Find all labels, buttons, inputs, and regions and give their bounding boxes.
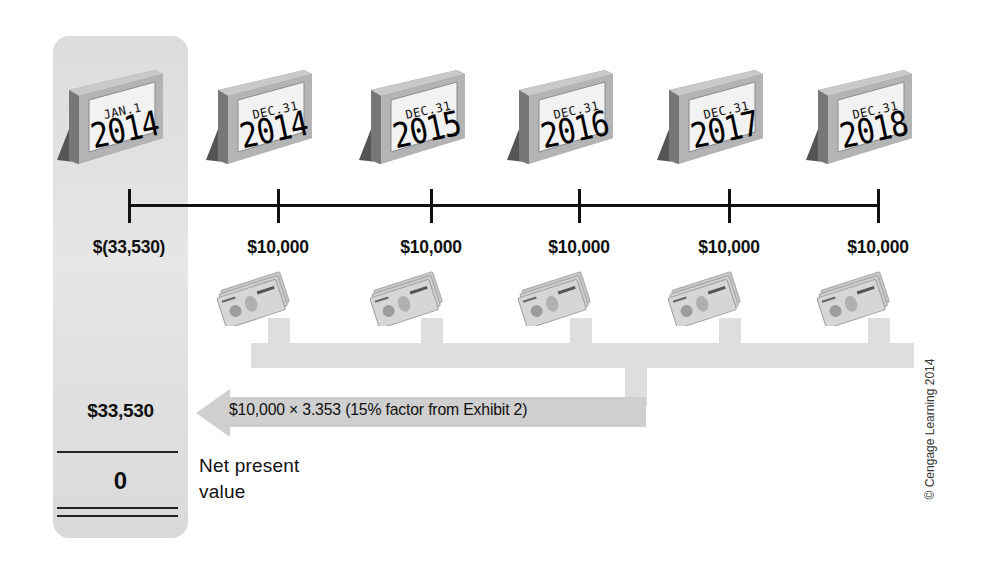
timeline-tick xyxy=(277,189,280,223)
money-bill-icon xyxy=(216,266,294,324)
money-bill-icon xyxy=(369,266,447,324)
subtotal-rule xyxy=(57,451,178,453)
cash-flow-label: $10,000 xyxy=(376,236,486,258)
timeline-tick xyxy=(728,189,731,223)
calendar-icon: JAN.12014 xyxy=(55,68,165,164)
present-value-amount: $33,530 xyxy=(58,400,183,422)
timeline-tick xyxy=(128,189,131,223)
calendar-icon: DEC.312018 xyxy=(804,68,914,164)
calendar-icon: DEC.312015 xyxy=(357,68,467,164)
calendar-icon: DEC.312017 xyxy=(655,68,765,164)
calendar-icon: DEC.312016 xyxy=(505,68,615,164)
timeline-tick xyxy=(430,189,433,223)
timeline-tick xyxy=(877,189,880,223)
npv-value: 0 xyxy=(58,467,183,495)
flow-collector-bar xyxy=(251,343,914,368)
money-bill-icon xyxy=(517,266,595,324)
npv-label: Net present value xyxy=(199,453,299,505)
calendar-icon: DEC.312014 xyxy=(204,68,314,164)
timeline-axis xyxy=(129,204,879,207)
discount-calculation: $10,000 × 3.353 (15% factor from Exhibit… xyxy=(229,400,527,420)
money-bill-icon xyxy=(667,266,745,324)
cash-flow-label: $(33,530) xyxy=(74,236,184,258)
npv-label-line2: value xyxy=(199,479,299,505)
npv-label-line1: Net present xyxy=(199,453,299,479)
money-bill-icon xyxy=(816,266,894,324)
cash-flow-label: $10,000 xyxy=(223,236,333,258)
double-rule-top xyxy=(57,507,178,509)
double-rule-bottom xyxy=(57,515,178,517)
cash-flow-label: $10,000 xyxy=(524,236,634,258)
copyright-notice: © Cengage Learning 2014 xyxy=(923,339,937,519)
arrow-left-icon xyxy=(196,389,230,437)
timeline-tick xyxy=(578,189,581,223)
cash-flow-label: $10,000 xyxy=(823,236,933,258)
cash-flow-label: $10,000 xyxy=(674,236,784,258)
